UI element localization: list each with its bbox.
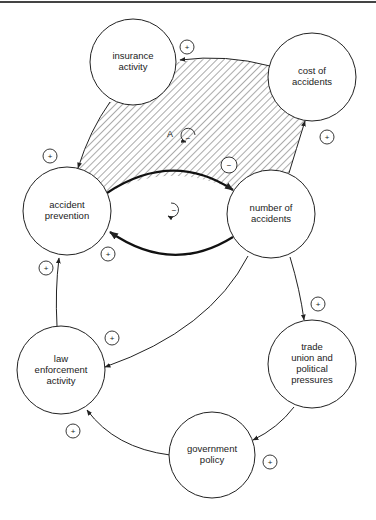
svg-text:prevention: prevention (45, 210, 89, 221)
node-number-of-accidents: number of accidents (227, 170, 315, 258)
loop-main-marker: − (168, 203, 179, 217)
svg-text:−: − (186, 134, 191, 143)
svg-text:+: + (48, 152, 53, 161)
svg-text:+: + (44, 264, 49, 273)
svg-text:accidents: accidents (251, 213, 291, 224)
svg-text:enforcement: enforcement (35, 364, 88, 375)
link-trade-to-government (253, 407, 294, 440)
svg-text:insurance: insurance (112, 50, 153, 61)
svg-text:+: + (106, 250, 111, 259)
svg-text:accident: accident (49, 199, 85, 210)
node-trade-union-pressures: trade union and political pressures (268, 320, 356, 408)
svg-text:trade: trade (301, 341, 323, 352)
svg-text:activity: activity (46, 375, 75, 386)
node-government-policy: government policy (169, 412, 255, 498)
sign-prevention-number: − (221, 157, 237, 173)
svg-text:+: + (110, 334, 115, 343)
link-law-to-prevention (56, 258, 59, 326)
link-number-to-trade (290, 257, 304, 320)
sign-government-law: + (66, 424, 80, 438)
sign-cost-insurance: + (180, 40, 194, 54)
node-law-enforcement-activity: law enforcement activity (17, 326, 105, 414)
svg-text:cost of: cost of (298, 65, 326, 76)
svg-text:+: + (325, 133, 330, 142)
svg-text:policy: policy (200, 454, 225, 465)
node-insurance-activity: insurance activity (90, 19, 176, 105)
svg-text:+: + (185, 43, 190, 52)
svg-text:A: A (167, 129, 173, 139)
svg-text:law: law (54, 353, 68, 364)
svg-text:+: + (71, 427, 76, 436)
svg-text:+: + (316, 300, 321, 309)
sign-number-prevention: + (101, 247, 115, 261)
link-number-to-law (105, 256, 248, 367)
sign-number-cost: + (320, 130, 334, 144)
node-accident-prevention: accident prevention (23, 167, 111, 255)
svg-text:−: − (227, 161, 232, 170)
link-number-to-prevention (110, 232, 233, 255)
sign-insurance-prevention: + (43, 149, 57, 163)
svg-text:number of: number of (250, 202, 293, 213)
svg-text:+: + (268, 458, 273, 467)
sign-number-law: + (105, 331, 119, 345)
svg-text:accidents: accidents (292, 76, 332, 87)
svg-text:government: government (187, 443, 238, 454)
sign-trade-government: + (263, 455, 277, 469)
svg-text:union and: union and (291, 352, 333, 363)
svg-text:pressures: pressures (291, 374, 333, 385)
sign-number-trade: + (311, 297, 325, 311)
svg-text:political: political (296, 363, 328, 374)
link-government-to-law (87, 410, 170, 455)
causal-loop-diagram: insurance activity cost of accidents acc… (0, 0, 376, 520)
svg-text:−: − (172, 206, 177, 215)
sign-law-prevention: + (39, 261, 53, 275)
svg-text:activity: activity (118, 61, 147, 72)
node-cost-of-accidents: cost of accidents (268, 33, 356, 121)
